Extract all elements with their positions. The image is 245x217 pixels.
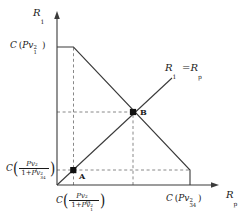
y-axis-max-tick-label: C (Pv21) [10,41,45,50]
equal-rate-line-label: R1=Rp [165,63,207,73]
x-axis-max-tick-label: C (Pv234) [166,194,201,203]
rate-region-diagram: R1 Rp R1=Rp A B C (Pv21) C(Pv211+Pv234) … [0,0,245,217]
diagram-canvas [0,0,245,217]
x-axis-arrowhead [211,182,219,188]
y-axis-low-tick-label: C(Pv211+Pv234) [6,160,55,176]
point-a-marker [70,167,76,173]
point-b-label: B [140,108,147,116]
x-axis-label: Rp [226,190,243,200]
point-a-label: A [79,172,85,180]
y-axis-label: R1 [33,8,50,18]
y-axis-arrowhead [54,11,60,19]
x-axis-low-tick-label: C(Pv2341+Pv21) [56,192,105,208]
point-b-marker [130,109,136,115]
axes [57,17,213,185]
